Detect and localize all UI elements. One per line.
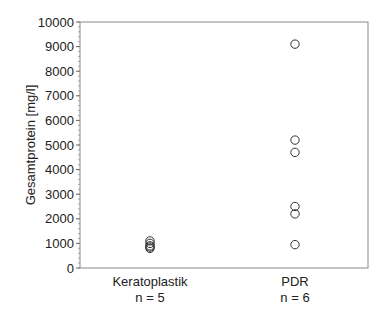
data-point (291, 240, 299, 248)
data-point (291, 40, 299, 48)
y-axis-label: Gesamtprotein [mg/l] (23, 85, 38, 206)
y-tick-label: 5000 (45, 138, 74, 153)
category-n-keratoplastik: n = 5 (135, 290, 164, 305)
y-tick-label: 4000 (45, 162, 74, 177)
plot-frame (80, 22, 368, 268)
data-point (291, 148, 299, 156)
category-label-keratoplastik: Keratoplastik (112, 274, 188, 289)
y-tick-label: 3000 (45, 187, 74, 202)
y-tick-label: 2000 (45, 211, 74, 226)
y-tick-label: 8000 (45, 64, 74, 79)
category-label-pdr: PDR (281, 274, 308, 289)
category-n-pdr: n = 6 (280, 290, 309, 305)
scatter-chart: 0100020003000400050006000700080009000100… (0, 0, 388, 314)
data-point (291, 136, 299, 144)
y-tick-label: 10000 (38, 15, 74, 30)
y-axis: 0100020003000400050006000700080009000100… (38, 15, 80, 276)
y-tick-label: 9000 (45, 39, 74, 54)
y-tick-label: 0 (67, 261, 74, 276)
y-tick-label: 7000 (45, 88, 74, 103)
y-tick-label: 6000 (45, 113, 74, 128)
data-points (146, 40, 299, 253)
y-tick-label: 1000 (45, 236, 74, 251)
